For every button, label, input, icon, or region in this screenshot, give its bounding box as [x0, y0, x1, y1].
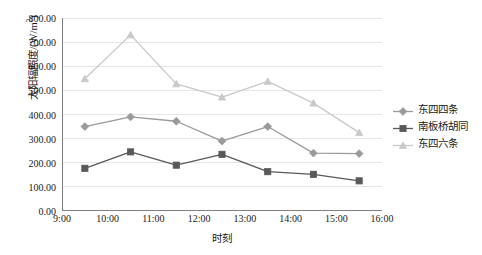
- x-axis-tick-labels: 9:0010:0011:0012:0013:0014:0015:0016:00: [0, 213, 482, 229]
- legend: 东四四条南板桥胡同东四六条: [392, 100, 482, 151]
- x-axis-tick-label: 16:00: [371, 213, 394, 224]
- data-point-marker: [264, 123, 272, 131]
- data-point-marker: [400, 125, 406, 131]
- y-axis-tick-label: 300.00: [29, 133, 57, 144]
- legend-label: 东四四条: [418, 101, 458, 116]
- y-axis-tick-label: 500.00: [29, 85, 57, 96]
- data-point-marker: [356, 178, 362, 184]
- legend-label: 南板桥胡同: [418, 118, 468, 133]
- plot-area: [62, 18, 382, 211]
- plot-svg: [62, 18, 382, 211]
- data-point-marker: [127, 31, 134, 38]
- legend-item[interactable]: 东四四条: [392, 100, 482, 116]
- y-axis-tick-label: 600.00: [29, 61, 57, 72]
- series-2: [81, 31, 362, 135]
- legend-marker-icon: [392, 120, 414, 131]
- x-axis-tick-label: 13:00: [233, 213, 256, 224]
- series-1: [82, 149, 362, 184]
- data-point-marker: [310, 171, 316, 177]
- y-axis-tick-label: 200.00: [29, 157, 57, 168]
- data-point-marker: [219, 151, 225, 157]
- data-point-marker: [265, 169, 271, 175]
- data-point-marker: [173, 162, 179, 168]
- legend-marker-icon: [392, 103, 414, 114]
- data-point-marker: [172, 117, 180, 125]
- x-axis-title: 时刻: [62, 230, 382, 245]
- legend-item[interactable]: 东四六条: [392, 134, 482, 150]
- data-point-marker: [399, 107, 407, 115]
- data-point-marker: [264, 78, 271, 85]
- data-point-marker: [355, 150, 363, 158]
- data-point-marker: [81, 123, 89, 131]
- data-point-marker: [82, 165, 88, 171]
- x-axis-tick-label: 14:00: [279, 213, 302, 224]
- data-point-marker: [356, 129, 363, 136]
- solar-irradiance-line-chart: 太阳辐照度/(W/m2) 0.00100.00200.00300.00400.0…: [0, 0, 482, 255]
- x-axis-tick-label: 11:00: [142, 213, 164, 224]
- legend-label: 东四六条: [418, 135, 458, 150]
- x-axis-tick-label: 9:00: [53, 213, 71, 224]
- x-axis-tick-label: 12:00: [188, 213, 211, 224]
- legend-marker-icon: [392, 137, 414, 148]
- data-point-marker: [310, 149, 318, 157]
- series-line: [85, 117, 359, 154]
- y-axis-tick-label: 800.00: [29, 13, 57, 24]
- data-point-marker: [127, 149, 133, 155]
- legend-item[interactable]: 南板桥胡同: [392, 117, 482, 133]
- x-axis-tick-label: 15:00: [325, 213, 348, 224]
- y-axis-tick-label: 700.00: [29, 37, 57, 48]
- x-axis-tick-label: 10:00: [96, 213, 119, 224]
- y-axis-tick-label: 400.00: [29, 109, 57, 120]
- y-axis-tick-label: 100.00: [29, 181, 57, 192]
- data-point-marker: [310, 100, 317, 107]
